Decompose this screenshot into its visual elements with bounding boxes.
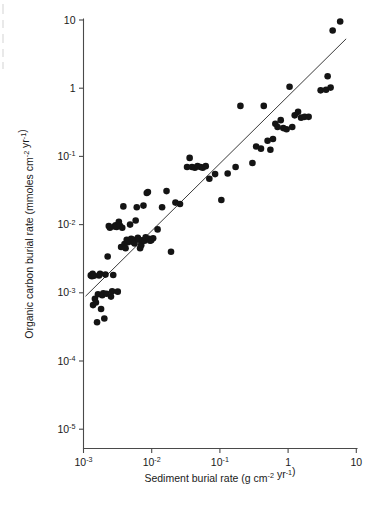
data-point — [218, 197, 225, 204]
data-point — [286, 83, 293, 90]
y-tick-label: 1 — [70, 82, 76, 94]
data-point — [289, 124, 296, 131]
y-axis-title: Organic carbon burial rate (mmoles cm-2 … — [16, 129, 35, 338]
data-point — [177, 201, 184, 208]
data-point — [258, 145, 265, 152]
data-point — [237, 103, 244, 110]
data-point — [132, 217, 139, 224]
data-point — [283, 126, 290, 133]
fit-line-group — [86, 39, 347, 296]
data-point — [109, 288, 116, 295]
data-point — [270, 136, 277, 143]
data-point — [260, 103, 267, 110]
data-point — [133, 204, 140, 211]
data-point — [145, 189, 152, 196]
data-point — [277, 117, 284, 124]
regression-line — [86, 39, 347, 296]
data-point — [249, 160, 256, 167]
data-point — [224, 170, 231, 177]
data-point — [212, 171, 219, 178]
x-tick-label: 10-3 — [74, 455, 92, 468]
data-point — [159, 204, 166, 211]
data-point — [114, 288, 121, 295]
data-point — [324, 73, 331, 80]
y-tick-label: 10-5 — [57, 422, 75, 435]
data-point — [150, 235, 157, 242]
y-axis-ticks: 10-510-410-310-210-1110 — [57, 14, 83, 435]
data-point — [329, 27, 336, 34]
scatter-plot: 10-510-410-310-210-1110 10-310-210-1110 … — [0, 0, 373, 505]
data-point — [168, 248, 175, 255]
page-edge-artifact — [2, 4, 4, 69]
data-point — [186, 155, 193, 162]
x-tick-label: 10 — [350, 456, 362, 468]
data-point — [274, 124, 281, 131]
data-point — [119, 224, 126, 231]
data-point — [305, 114, 312, 121]
x-axis-ticks: 10-310-210-1110 — [74, 449, 362, 469]
data-point — [163, 188, 170, 195]
data-point — [127, 221, 134, 228]
x-tick-label: 10-2 — [143, 455, 161, 468]
data-point — [154, 226, 161, 233]
data-point — [110, 272, 117, 279]
data-point — [102, 271, 109, 278]
data-point — [93, 299, 100, 306]
y-tick-label: 10-2 — [57, 218, 75, 231]
data-point — [295, 109, 302, 116]
figure-container: 10-510-410-310-210-1110 10-310-210-1110 … — [0, 0, 373, 505]
data-point — [94, 319, 101, 326]
data-point — [122, 245, 129, 252]
data-points-group — [88, 18, 344, 325]
x-tick-label: 1 — [285, 456, 291, 468]
data-point — [232, 164, 239, 171]
data-point — [98, 306, 105, 313]
data-point — [101, 315, 108, 322]
data-point — [327, 84, 334, 91]
y-tick-label: 10 — [64, 14, 76, 26]
data-point — [337, 18, 344, 25]
data-point — [267, 146, 274, 153]
data-point — [202, 163, 209, 170]
y-tick-label: 10-4 — [57, 354, 75, 367]
data-point — [104, 253, 111, 260]
data-point — [206, 175, 213, 182]
data-point — [140, 202, 147, 209]
y-tick-label: 10-3 — [57, 286, 75, 299]
y-tick-label: 10-1 — [57, 149, 75, 162]
data-point — [120, 203, 127, 210]
plot-axes — [84, 19, 358, 449]
x-tick-label: 10-1 — [211, 455, 229, 468]
